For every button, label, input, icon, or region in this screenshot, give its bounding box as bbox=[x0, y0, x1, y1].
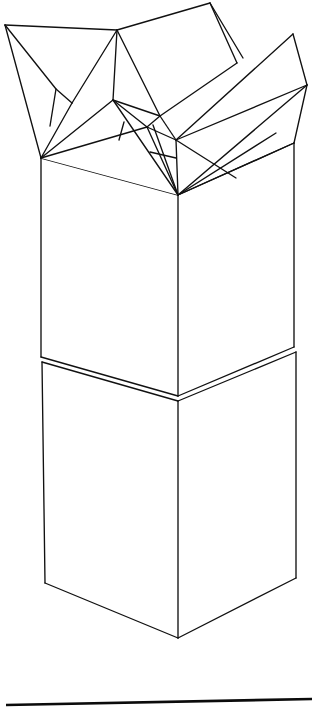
drawing-canvas: Open cardboard box line drawing Black in… bbox=[0, 0, 314, 716]
upper-left-panel-fill bbox=[41, 158, 178, 396]
box-line-drawing bbox=[0, 0, 314, 716]
